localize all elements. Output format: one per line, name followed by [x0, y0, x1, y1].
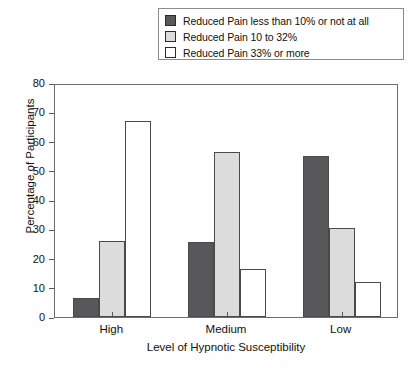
bar	[188, 242, 214, 317]
x-axis-tick-mark	[342, 312, 343, 318]
x-axis-category-label: Low	[301, 323, 381, 335]
x-axis-title: Level of Hypnotic Susceptibility	[54, 341, 398, 353]
legend-item: Reduced Pain 33% or more	[165, 45, 403, 60]
y-axis-title: Percentage of Participants	[24, 50, 36, 282]
x-axis-tick-mark	[112, 312, 113, 318]
bar	[73, 298, 99, 317]
x-axis-category-label: High	[71, 323, 151, 335]
legend-swatch-icon	[165, 47, 176, 58]
legend-item-label: Reduced Pain 10 to 32%	[183, 31, 297, 43]
bar	[240, 269, 266, 317]
chart-legend: Reduced Pain less than 10% or not at all…	[158, 8, 404, 60]
y-axis-tick-label: 0	[39, 310, 45, 325]
bar	[355, 282, 381, 317]
x-axis-tick-mark	[227, 312, 228, 318]
y-axis-tick-label: 10	[33, 281, 45, 296]
bar	[303, 156, 329, 317]
bar	[329, 228, 355, 317]
bar	[214, 152, 240, 317]
bar	[99, 241, 125, 317]
x-axis-category-label: Medium	[186, 323, 266, 335]
legend-item: Reduced Pain less than 10% or not at all	[165, 13, 403, 28]
legend-swatch-icon	[165, 31, 176, 42]
legend-swatch-icon	[165, 15, 176, 26]
plot-frame	[54, 84, 398, 318]
legend-item-label: Reduced Pain 33% or more	[183, 47, 310, 59]
bar-chart-figure: Reduced Pain less than 10% or not at all…	[0, 0, 412, 368]
legend-item: Reduced Pain 10 to 32%	[165, 29, 403, 44]
bar	[125, 121, 151, 317]
legend-item-label: Reduced Pain less than 10% or not at all	[183, 15, 369, 27]
plot-area	[55, 85, 397, 317]
